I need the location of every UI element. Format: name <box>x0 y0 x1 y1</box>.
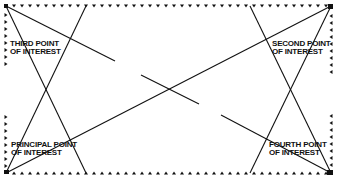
frame-right-border <box>330 14 333 167</box>
principal-point-label: PRINCIPAL POINT OF INTEREST <box>11 141 77 157</box>
fourth-point-label-line2: OF INTEREST <box>269 149 327 157</box>
third-point-label: THIRD POINT OF INTEREST <box>10 40 61 56</box>
frame-bottom-border <box>12 172 328 175</box>
second-point-label: SECOND POINT OF INTEREST <box>272 40 331 56</box>
frame-left-border <box>5 13 8 168</box>
third-point-label-line2: OF INTEREST <box>10 48 61 56</box>
fourth-point-label: FOURTH POINT OF INTEREST <box>269 141 327 157</box>
second-point-label-line2: OF INTEREST <box>272 48 331 56</box>
principal-point-label-line2: OF INTEREST <box>11 149 77 157</box>
frame-top-border <box>12 5 328 8</box>
